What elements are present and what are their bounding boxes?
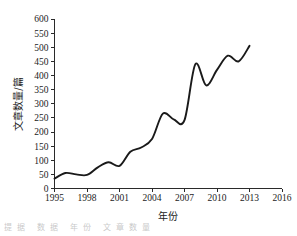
x-axis-tick-labels: 19951998200120042007201020132016 (45, 193, 292, 203)
y-axis-tick-label: 350 (34, 85, 49, 95)
line-chart: 050100150200250300350400450500550600 199… (0, 0, 297, 236)
x-axis-tick-label: 2001 (110, 193, 129, 203)
chart-figure: 050100150200250300350400450500550600 199… (0, 0, 297, 236)
y-axis-tick-label: 150 (34, 142, 49, 152)
y-axis-tick-label: 100 (34, 156, 49, 166)
x-axis-tick-label: 2004 (143, 193, 162, 203)
x-axis-tick-label: 2010 (208, 193, 227, 203)
y-axis-tick-labels: 050100150200250300350400450500550600 (34, 14, 49, 194)
x-axis-tick-label: 2007 (175, 193, 194, 203)
y-axis-tick-label: 250 (34, 113, 49, 123)
y-axis-tick-label: 200 (34, 127, 49, 137)
y-axis-tick-label: 450 (34, 57, 49, 67)
data-series-line (55, 46, 250, 179)
page-caption-fragment: 提据 数据 年份 文章数量 (0, 220, 297, 236)
y-axis-tick-label: 400 (34, 71, 49, 81)
y-axis-tick-label: 500 (34, 43, 49, 53)
x-axis-tick-label: 1998 (78, 193, 97, 203)
y-axis-tick-label: 550 (34, 29, 49, 39)
y-axis-title: 文章数量/篇 (12, 77, 24, 130)
x-axis-tick-label: 2013 (240, 193, 259, 203)
x-axis-tick-label: 2016 (273, 193, 292, 203)
y-axis-tick-label: 600 (34, 14, 49, 24)
y-axis-tick-label: 300 (34, 99, 49, 109)
y-axis-tick-label: 50 (39, 170, 49, 180)
x-axis-tick-label: 1995 (45, 193, 64, 203)
